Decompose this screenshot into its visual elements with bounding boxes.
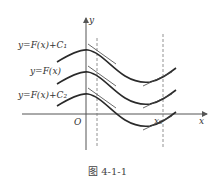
curve-F: [57, 72, 176, 104]
x0-label: x₀: [154, 116, 163, 126]
tangent-mid-right: [143, 94, 172, 108]
figure-canvas: y=F(x)+C₁ y=F(x) y=F(x)+C₂ y x O x₀ 图 4-…: [0, 0, 217, 189]
tangent-mid-left: [88, 66, 116, 86]
label-curve-F: y=F(x): [29, 66, 61, 76]
label-curve-C2: y=F(x)+C₂: [17, 90, 67, 100]
curve-F-plus-C1: [57, 50, 176, 82]
tangent-top-left: [88, 44, 116, 64]
origin-label: O: [74, 117, 82, 127]
label-curve-C1: y=F(x)+C₁: [17, 40, 67, 50]
figure-caption: 图 4-1-1: [88, 166, 127, 177]
x-axis-label: x: [199, 116, 204, 126]
y-axis-label: y: [88, 15, 95, 25]
tangent-top-right: [143, 72, 172, 86]
tangent-bot-left: [88, 88, 116, 108]
